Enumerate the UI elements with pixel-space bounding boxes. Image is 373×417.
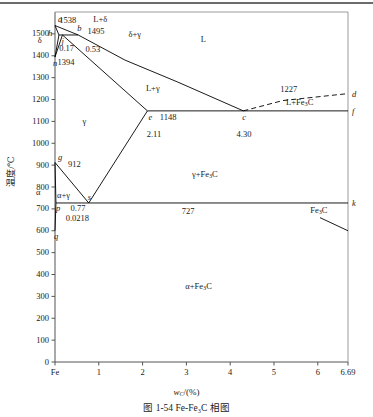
y-tick-label: 0	[45, 358, 49, 367]
curve-liquidus-AB-BC	[55, 26, 243, 111]
x-tick-label: 5	[258, 368, 290, 377]
value-annotation: 0.53	[85, 45, 100, 54]
value-annotation: 4.30	[237, 130, 252, 139]
value-annotation: 1495	[88, 27, 105, 36]
axis-ticks	[52, 34, 349, 366]
phase-region-label: L+Fe3C	[286, 98, 313, 107]
invariant-point-b: b	[77, 24, 81, 33]
x-tick-label: 6.69	[332, 368, 364, 377]
invariant-point-c: c	[242, 113, 246, 122]
phase-region-label: γ+Fe3C	[192, 170, 218, 179]
value-annotation: 727	[182, 207, 195, 216]
x-axis-title: wC/(%)	[0, 387, 373, 397]
invariant-point-n: n	[53, 59, 57, 68]
x-tick-label: 1	[83, 368, 115, 377]
curve-solidus-JE	[62, 35, 147, 111]
phase-region-label: L	[201, 35, 206, 44]
phase-region-label: L+γ	[146, 84, 160, 93]
value-annotation: 0.0218	[66, 214, 89, 223]
y-tick-label: 1100	[32, 117, 49, 126]
invariant-point-f: f	[352, 107, 354, 116]
y-tick-label: 1200	[32, 95, 49, 104]
y-tick-label: 1000	[32, 139, 49, 148]
phase-region-label: L+δ	[93, 15, 107, 24]
value-annotation: 1148	[160, 113, 177, 122]
y-axis-title: 温度/℃	[4, 143, 17, 201]
value-annotation: 1394	[57, 58, 74, 67]
phase-region-label: α+Fe3C	[185, 282, 212, 291]
curve-solvus-ES	[89, 111, 148, 203]
x-tick-label: Fe	[39, 368, 71, 377]
y-tick-label: 200	[36, 314, 49, 323]
value-annotation: 912	[68, 160, 81, 169]
phase-region-label: α+γ	[57, 191, 70, 200]
phase-region-label: Fe3C	[310, 206, 327, 215]
invariant-point-p: p	[56, 204, 60, 213]
invariant-point-h: h	[48, 29, 52, 38]
x-tick-label: 4	[214, 368, 246, 377]
phase-region-label: δ	[38, 36, 42, 45]
invariant-point-q: q	[54, 232, 58, 241]
y-tick-label: 1400	[32, 51, 49, 60]
value-annotation: 1227	[280, 85, 297, 94]
phase-region-label: γ	[82, 117, 86, 126]
x-tick-label: 3	[170, 368, 202, 377]
y-tick-label: 400	[36, 270, 49, 279]
phase-diagram-figure: 0100200300400500600700800900100011001200…	[0, 0, 373, 417]
y-tick-label: 100	[36, 336, 49, 345]
invariant-point-d: d	[352, 90, 356, 99]
phase-boundary-curves	[55, 26, 348, 231]
x-tick-label: 2	[127, 368, 159, 377]
curve-fe3c-leader	[320, 218, 348, 231]
invariant-point-e: e	[148, 113, 152, 122]
y-tick-label: 500	[36, 248, 49, 257]
invariant-point-k: k	[352, 199, 356, 208]
phase-region-label: α	[36, 188, 40, 197]
x-tick-label: 6	[302, 368, 334, 377]
figure-caption: 图 1-54 Fe-Fe₃C 相图	[0, 400, 373, 414]
y-tick-label: 1300	[32, 73, 49, 82]
invariant-point-s: s	[88, 193, 91, 202]
y-tick-label: 600	[36, 226, 49, 235]
y-tick-label: 700	[36, 204, 49, 213]
invariant-point-g: g	[58, 153, 62, 162]
y-tick-label: 300	[36, 292, 49, 301]
invariant-point-j: j	[61, 37, 63, 46]
phase-region-label: δ+γ	[128, 30, 141, 39]
value-annotation: 2.11	[147, 130, 162, 139]
y-tick-label: 900	[36, 161, 49, 170]
value-annotation: 0.77	[71, 204, 86, 213]
invariant-point-a: a	[58, 15, 62, 24]
